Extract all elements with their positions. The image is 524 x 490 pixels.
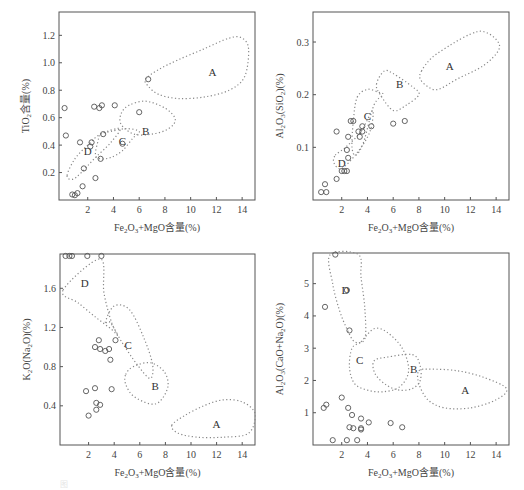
y-tick-label: 3	[304, 343, 309, 354]
x-tick-label: 12	[465, 449, 475, 460]
x-tick-label: 8	[163, 449, 168, 460]
x-tick-label: 8	[416, 449, 421, 460]
data-point	[346, 405, 351, 410]
data-point	[349, 412, 354, 417]
x-tick-label: 14	[237, 204, 247, 215]
data-point	[98, 346, 103, 351]
data-point	[322, 182, 327, 187]
field-a-label: A	[213, 418, 221, 430]
y-tick-label: 0.3	[297, 37, 310, 48]
x-tick-label: 6	[137, 449, 142, 460]
field-c-label: C	[125, 339, 132, 351]
data-point	[346, 155, 351, 160]
field-b-boundary	[376, 70, 419, 111]
y-tick-label: 1	[304, 407, 309, 418]
field-b-label: B	[151, 380, 158, 392]
x-tick-label: 10	[186, 204, 196, 215]
x-tick-label: 4	[111, 204, 116, 215]
x-tick-label: 2	[339, 204, 344, 215]
y-tick-label: 5	[304, 278, 309, 289]
y-tick-label: 1.6	[44, 283, 57, 294]
data-point	[388, 420, 393, 425]
x-tick-label: 4	[112, 449, 117, 460]
data-point	[339, 395, 344, 400]
data-point	[391, 121, 396, 126]
plot-frame	[313, 253, 509, 445]
field-c-boundary	[352, 89, 383, 155]
field-a-label: A	[209, 66, 217, 78]
x-axis-label: Fe2O3+MgO含量(%)	[114, 221, 200, 235]
x-tick-label: 4	[365, 449, 370, 460]
field-a-boundary	[420, 31, 500, 90]
figure: 24681012140.20.40.60.81.01.2Fe2O3+MgO含量(…	[0, 0, 524, 490]
data-point	[92, 344, 97, 349]
field-d-label: D	[342, 284, 350, 296]
y-tick-label: 0.2	[297, 89, 310, 100]
field-b-label: B	[142, 125, 149, 137]
y-tick-label: 2	[304, 375, 309, 386]
x-tick-label: 10	[440, 204, 450, 215]
y-tick-label: 1.2	[44, 322, 57, 333]
x-tick-label: 2	[339, 449, 344, 460]
x-tick-label: 8	[162, 204, 167, 215]
data-point	[355, 438, 360, 443]
field-c-boundary	[95, 129, 139, 159]
data-point	[83, 389, 88, 394]
y-tick-label: 0.6	[43, 112, 56, 123]
field-b-boundary	[125, 363, 168, 405]
y-tick-label: 1.2	[43, 30, 56, 41]
data-point	[400, 425, 405, 430]
x-axis-label: Fe2O3+MgO含量(%)	[368, 221, 454, 235]
x-tick-label: 2	[85, 204, 90, 215]
panel-tio2: 24681012140.20.40.60.81.01.2Fe2O3+MgO含量(…	[19, 12, 255, 235]
data-point	[319, 190, 324, 195]
field-a-label: A	[461, 384, 469, 396]
data-point	[402, 118, 407, 123]
data-point	[344, 438, 349, 443]
panel-al2o3-sio2: 24681012140.10.20.3Fe2O3+MgO含量(%)Al2O3(S…	[274, 12, 509, 235]
x-tick-label: 10	[186, 449, 196, 460]
y-tick-label: 0.8	[44, 361, 57, 372]
data-point	[108, 357, 113, 362]
x-tick-label: 14	[491, 449, 501, 460]
x-tick-label: 12	[211, 204, 221, 215]
data-point	[112, 103, 117, 108]
data-point	[344, 147, 349, 152]
field-a-boundary	[145, 37, 249, 99]
y-tick-label: 1.0	[43, 57, 56, 68]
panel-k2o-na2o: 24681012140.40.81.21.6Fe2O3+MgO含量(%)K2O(…	[21, 253, 255, 480]
data-point	[146, 77, 151, 82]
x-tick-label: 12	[465, 204, 475, 215]
data-point	[346, 134, 351, 139]
x-tick-label: 4	[365, 204, 370, 215]
y-axis-label: Al2O3(SiO2)(%)	[274, 74, 287, 139]
field-d-boundary	[67, 128, 120, 179]
y-tick-label: 0.4	[44, 400, 57, 411]
data-point	[369, 124, 374, 129]
plot-frame	[59, 12, 255, 200]
y-axis-label: TiO2含量(%)	[19, 79, 33, 133]
data-point	[358, 416, 363, 421]
data-point	[80, 184, 85, 189]
figure-caption: 图	[60, 478, 460, 488]
data-point	[77, 140, 82, 145]
data-point	[113, 338, 118, 343]
field-d-boundary	[62, 259, 118, 336]
y-tick-label: 0.1	[297, 142, 310, 153]
x-tick-label: 6	[137, 204, 142, 215]
data-point	[360, 129, 365, 134]
y-axis-label: Al2O3(CaO+Na2O)(%)	[274, 303, 287, 395]
data-point	[334, 176, 339, 181]
field-c-label: C	[364, 110, 371, 122]
data-point	[62, 105, 67, 110]
field-a-label: A	[446, 60, 454, 72]
data-point	[109, 387, 114, 392]
plot-frame	[313, 12, 509, 200]
field-d-label: D	[338, 157, 346, 169]
y-axis-label: K2O(Na2O)(%)	[21, 319, 34, 381]
data-point	[63, 133, 68, 138]
data-point	[330, 438, 335, 443]
field-b-label: B	[410, 363, 417, 375]
data-point	[357, 134, 362, 139]
data-point	[92, 104, 97, 109]
